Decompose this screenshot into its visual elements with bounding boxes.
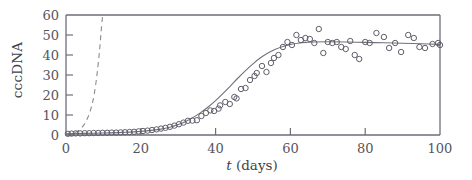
data-point <box>398 49 403 54</box>
x-tick-label: 80 <box>357 141 374 156</box>
data-point <box>247 77 252 82</box>
data-point <box>321 50 326 55</box>
x-tick-label: 40 <box>207 141 224 156</box>
x-axis-units: (days) <box>232 157 278 173</box>
y-tick-label: 20 <box>42 88 59 103</box>
x-axis-label-text: t (days) <box>226 157 278 173</box>
data-point <box>216 106 221 111</box>
sigmoid-fit-curve <box>66 42 440 134</box>
data-point <box>217 103 222 108</box>
data-point <box>352 52 357 57</box>
y-tick-label: 0 <box>51 128 59 143</box>
y-tick-label: 30 <box>42 68 59 83</box>
x-tick-label: 100 <box>428 141 453 156</box>
x-tick-label: 0 <box>62 141 70 156</box>
data-point <box>294 32 299 37</box>
x-axis-label: t (days) <box>0 155 472 174</box>
y-tick-label: 50 <box>42 28 59 43</box>
data-point <box>406 32 411 37</box>
data-point <box>264 69 269 74</box>
data-point <box>357 56 362 61</box>
chart-figure: cccDNA 0102030405060 020406080100 t (day… <box>0 0 472 180</box>
axis-frame <box>66 15 440 135</box>
plot-area: 0102030405060 020406080100 <box>0 0 472 180</box>
y-tick-labels: 0102030405060 <box>42 8 59 143</box>
data-point <box>381 34 386 39</box>
data-point <box>316 26 321 31</box>
data-point <box>259 63 264 68</box>
y-tick-label: 10 <box>42 108 59 123</box>
x-tick-labels: 020406080100 <box>62 141 453 156</box>
x-tick-label: 60 <box>282 141 299 156</box>
data-point <box>386 45 391 50</box>
data-point <box>268 60 273 65</box>
data-point <box>343 46 348 51</box>
x-tick-label: 20 <box>133 141 150 156</box>
y-tick-label: 40 <box>42 48 59 63</box>
data-point <box>411 35 416 40</box>
data-point <box>422 45 427 50</box>
data-point <box>227 101 232 106</box>
y-tick-label: 60 <box>42 8 59 23</box>
data-point <box>276 52 281 57</box>
data-point <box>312 40 317 45</box>
tick-marks <box>66 35 365 135</box>
data-point <box>374 30 379 35</box>
data-point <box>417 44 422 49</box>
data-point <box>348 38 353 43</box>
